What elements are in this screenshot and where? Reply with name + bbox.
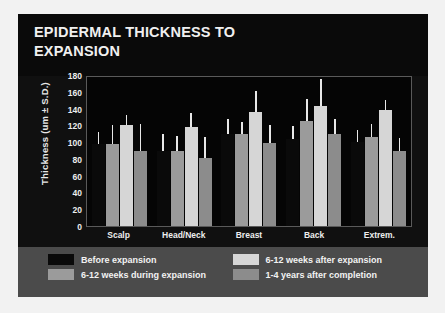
y-axis-tick: 100 <box>54 138 82 148</box>
legend-swatch <box>233 269 259 280</box>
chart-legend: Before expansion6-12 weeks after expansi… <box>18 247 428 297</box>
error-bar <box>334 119 336 133</box>
error-bar <box>162 134 164 151</box>
bar-slot <box>106 77 119 226</box>
bar <box>249 112 262 226</box>
bar-slot <box>185 77 198 226</box>
slide-page: EPIDERMAL THICKNESS TO EXPANSION Thickne… <box>0 0 445 313</box>
bar-slot <box>134 77 147 226</box>
chart-plot-area: Thickness (um ± S.D.) 180160140120100806… <box>18 76 428 241</box>
y-axis-label: Thickness (um ± S.D.) <box>39 64 50 204</box>
title-band: EPIDERMAL THICKNESS TO EXPANSION <box>18 14 428 76</box>
error-bar <box>176 136 178 151</box>
bar <box>393 151 406 227</box>
x-axis-label: Breast <box>216 228 281 242</box>
bar-slot <box>171 77 184 226</box>
bar <box>379 110 392 226</box>
bar <box>157 151 170 227</box>
legend-item: 6-12 weeks after expansion <box>233 254 414 265</box>
bar-slot <box>286 77 299 226</box>
y-axis-tick: 160 <box>54 88 82 98</box>
error-bar <box>371 124 373 137</box>
bar-slot <box>263 77 276 226</box>
bar-group <box>157 77 212 226</box>
error-bar <box>385 100 387 110</box>
bar-slot <box>157 77 170 226</box>
legend-swatch <box>233 254 259 265</box>
bar <box>134 151 147 227</box>
page-title: EPIDERMAL THICKNESS TO EXPANSION <box>34 23 394 62</box>
bar <box>106 144 119 226</box>
bar <box>199 158 212 226</box>
y-axis-tick: 180 <box>54 71 82 81</box>
error-bar <box>98 132 100 144</box>
error-bar <box>255 91 257 112</box>
x-axis-label: Back <box>282 228 347 242</box>
error-bar <box>204 137 206 158</box>
legend-label: 6-12 weeks during expansion <box>81 270 206 280</box>
legend-label: 6-12 weeks after expansion <box>266 255 383 265</box>
y-axis-tick: 60 <box>54 172 82 182</box>
y-axis-tick: 80 <box>54 155 82 165</box>
x-axis-label: Extrem. <box>347 228 412 242</box>
error-bar <box>112 125 114 144</box>
error-bar <box>292 126 294 139</box>
bar-slot <box>379 77 392 226</box>
legend-grid: Before expansion6-12 weeks after expansi… <box>48 254 413 280</box>
error-bar <box>140 124 142 151</box>
bar-slot <box>92 77 105 226</box>
bar-groups <box>87 77 411 226</box>
bar-group <box>221 77 276 226</box>
x-axis-label: Head/Neck <box>151 228 216 242</box>
error-bar <box>269 125 271 143</box>
y-axis-tick: 140 <box>54 105 82 115</box>
legend-swatch <box>48 254 74 265</box>
error-bar <box>399 138 401 151</box>
legend-item: Before expansion <box>48 254 229 265</box>
y-axis-tick: 20 <box>54 205 82 215</box>
legend-label: 1-4 years after completion <box>266 270 378 280</box>
error-bar <box>227 119 229 133</box>
legend-label: Before expansion <box>81 255 157 265</box>
y-axis-tick: 0 <box>54 222 82 232</box>
bar-slot <box>199 77 212 226</box>
bar-group <box>92 77 147 226</box>
bar-slot <box>235 77 248 226</box>
y-axis-ticks: 180160140120100806040200 <box>54 76 82 241</box>
error-bar <box>241 122 243 134</box>
bar-slot <box>221 77 234 226</box>
bar-slot <box>393 77 406 226</box>
legend-item: 6-12 weeks during expansion <box>48 269 229 280</box>
x-axis-labels: ScalpHead/NeckBreastBackExtrem. <box>86 228 412 242</box>
bar <box>314 106 327 226</box>
legend-item: 1-4 years after completion <box>233 269 414 280</box>
bar <box>286 139 299 226</box>
bar <box>365 137 378 226</box>
presentation-slide: EPIDERMAL THICKNESS TO EXPANSION Thickne… <box>18 14 428 297</box>
plot-frame <box>86 76 412 227</box>
y-axis-tick: 40 <box>54 188 82 198</box>
error-bar <box>306 99 308 121</box>
bar-slot <box>328 77 341 226</box>
bar-group <box>286 77 341 226</box>
bar-group <box>351 77 406 226</box>
legend-swatch <box>48 269 74 280</box>
bar <box>171 151 184 226</box>
bar <box>221 134 234 226</box>
bar-slot <box>249 77 262 226</box>
bar <box>351 142 364 226</box>
bar-slot <box>120 77 133 226</box>
bar <box>120 125 133 226</box>
bar <box>328 134 341 226</box>
bar <box>185 127 198 226</box>
bar <box>92 144 105 226</box>
y-axis-tick: 120 <box>54 121 82 131</box>
bar <box>235 134 248 226</box>
bar-slot <box>314 77 327 226</box>
bar <box>300 121 313 226</box>
bar-slot <box>365 77 378 226</box>
x-axis-label: Scalp <box>86 228 151 242</box>
error-bar <box>190 113 192 127</box>
bar <box>263 143 276 226</box>
error-bar <box>126 115 128 125</box>
